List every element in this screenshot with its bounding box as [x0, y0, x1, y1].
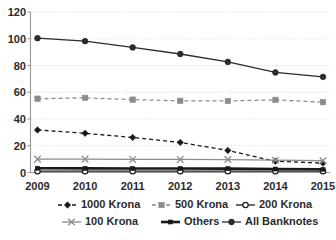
- x-tick-label-2012: 2012: [168, 180, 192, 192]
- data-point-2010: [82, 95, 87, 100]
- x-tick-label-2013: 2013: [216, 180, 240, 192]
- data-point-2013: [225, 98, 230, 103]
- y-tick-label-120: 120: [8, 6, 26, 18]
- data-point-2015: [321, 167, 325, 171]
- data-point-2010: [83, 166, 87, 170]
- y-tick-label-40: 40: [14, 113, 26, 125]
- data-point-2009: [35, 35, 41, 41]
- data-point-2009: [35, 96, 40, 101]
- x-tick-label-2009: 2009: [25, 180, 49, 192]
- data-point-2014: [273, 167, 277, 171]
- data-point-2010: [82, 38, 88, 44]
- data-point-2012: [178, 98, 183, 103]
- legend-label: 200 Krona: [259, 198, 313, 210]
- data-point-2012: [178, 166, 182, 170]
- legend-label: 1000 Krona: [81, 198, 141, 210]
- data-point-2009: [36, 166, 40, 170]
- legend-label: 500 Krona: [175, 198, 229, 210]
- legend-swatch-marker: [243, 202, 248, 207]
- data-point-2011: [130, 97, 135, 102]
- x-tick-label-2011: 2011: [121, 180, 145, 192]
- y-tick-label-60: 60: [14, 86, 26, 98]
- data-point-2014: [273, 97, 278, 102]
- legend-swatch-marker: [229, 219, 235, 225]
- chart-canvas: 020406080100120 200920102011201220132014…: [0, 0, 336, 240]
- data-point-2013: [225, 59, 231, 65]
- x-tick-label-2010: 2010: [73, 180, 97, 192]
- data-point-2014: [273, 70, 279, 76]
- legend-swatch-marker: [159, 202, 164, 207]
- y-tick-label-20: 20: [14, 140, 26, 152]
- data-point-2013: [226, 167, 230, 171]
- y-tick-label-80: 80: [14, 60, 26, 72]
- legend-label: Others: [184, 215, 219, 227]
- x-tick-label-2014: 2014: [263, 180, 288, 192]
- data-point-2011: [131, 166, 135, 170]
- legend-swatch-marker: [169, 220, 173, 224]
- x-tick-label-2015: 2015: [311, 180, 335, 192]
- y-tick-label-0: 0: [20, 167, 26, 179]
- data-point-2012: [177, 51, 183, 57]
- data-point-2015: [320, 99, 325, 104]
- data-point-2015: [320, 74, 326, 80]
- legend-label: All Banknotes: [245, 215, 318, 227]
- legend-label: 100 Krona: [85, 215, 139, 227]
- y-tick-label-100: 100: [8, 33, 26, 45]
- data-point-2011: [130, 45, 136, 51]
- line-chart: 020406080100120 200920102011201220132014…: [0, 0, 336, 240]
